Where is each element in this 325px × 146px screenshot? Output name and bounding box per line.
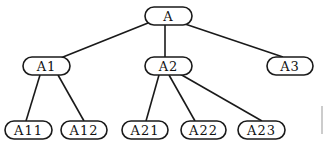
edge-a2-a22 [169,75,195,121]
node-label: A2 [158,59,179,74]
edge-a1-a12 [58,75,84,121]
edge-a1-a11 [26,75,40,121]
node-label: A [162,9,173,24]
node-label: A23 [246,123,276,138]
node-a23: A23 [238,121,285,139]
node-label: A3 [279,59,300,74]
node-layer: AA1A2A3A11A12A21A22A23 [5,7,313,139]
node-a3: A3 [267,57,313,75]
node-a1: A1 [23,57,70,75]
edge-a2-a23 [180,74,262,121]
node-a: A [145,7,192,25]
tree-diagram: AA1A2A3A11A12A21A22A23 [0,0,325,146]
node-label: A11 [13,123,43,138]
node-a12: A12 [61,121,107,139]
node-label: A1 [36,59,57,74]
node-label: A12 [69,123,99,138]
node-a22: A22 [181,121,226,139]
edge-a2-a21 [146,75,159,121]
edge-a-a3 [185,24,283,57]
node-label: A21 [130,123,160,138]
node-a11: A11 [5,121,52,139]
node-label: A22 [188,123,218,138]
node-a2: A2 [145,57,192,75]
node-a21: A21 [122,121,168,139]
edge-a-a1 [58,23,148,59]
